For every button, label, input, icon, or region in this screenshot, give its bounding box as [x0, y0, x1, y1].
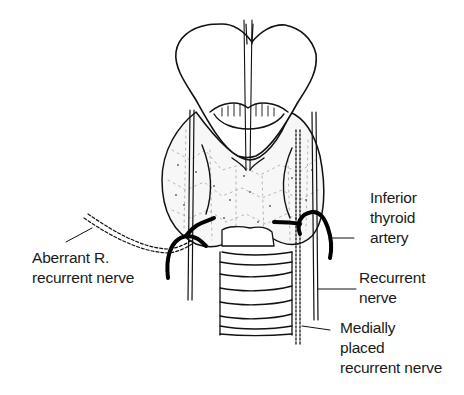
label-line: nerve — [359, 288, 425, 308]
label-inferior-thyroid-artery: Inferior thyroid artery — [370, 188, 417, 248]
label-line: artery — [370, 228, 417, 248]
label-aberrant-recurrent-nerve: Aberrant R. recurrent nerve — [32, 248, 134, 288]
label-line: recurrent nerve — [340, 358, 442, 378]
label-line: Inferior — [370, 188, 417, 208]
label-recurrent-nerve: Recurrent nerve — [359, 268, 425, 308]
label-line: Aberrant R. — [32, 248, 134, 268]
label-line: Medially — [340, 318, 442, 338]
label-medially-placed-recurrent-nerve: Medially placed recurrent nerve — [340, 318, 442, 378]
label-line: thyroid — [370, 208, 417, 228]
label-line: recurrent nerve — [32, 268, 134, 288]
label-line: Recurrent — [359, 268, 425, 288]
label-line: placed — [340, 338, 442, 358]
